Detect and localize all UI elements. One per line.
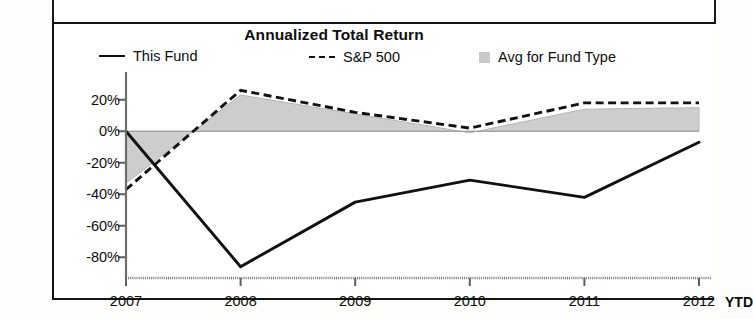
x-axis-labels: 200720082009201020112012YTD: [54, 24, 714, 298]
x-axis-tick-label: 2007: [110, 293, 142, 309]
page-box-fragment-above: [52, 0, 716, 24]
x-axis-tick-label: 2009: [339, 293, 371, 309]
ytd-label: YTD: [725, 294, 753, 310]
annualized-total-return-panel: Annualized Total Return This Fund S&P 50…: [52, 22, 714, 300]
x-axis-tick-label: 2010: [454, 293, 486, 309]
x-axis-tick-label: 2011: [569, 293, 600, 309]
x-axis-tick-label: 2008: [224, 293, 256, 309]
plot-area: 20%0%-20%-40%-60%-80% 200720082009201020…: [54, 24, 714, 298]
x-axis-tick-label: 2012: [683, 293, 715, 309]
